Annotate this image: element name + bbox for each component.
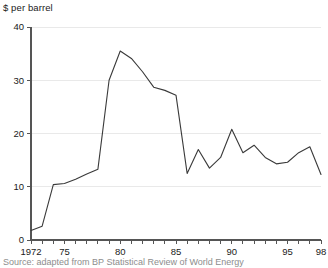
x-tick-label: 80 — [115, 246, 126, 257]
y-tick-label: 20 — [13, 128, 24, 139]
data-series-line — [31, 51, 321, 230]
y-tick-label: 0 — [19, 234, 24, 245]
y-tick-group: 010203040 — [13, 21, 31, 245]
x-tick-label: 75 — [59, 246, 70, 257]
x-tick-label: 95 — [282, 246, 293, 257]
oil-price-chart: $ per barrel 010203040 1972758085909598 … — [0, 0, 328, 268]
y-tick-label: 10 — [13, 181, 24, 192]
y-tick-label: 30 — [13, 75, 24, 86]
x-tick-label: 90 — [226, 246, 237, 257]
x-tick-label: 1972 — [20, 246, 41, 257]
x-tick-label: 98 — [316, 246, 327, 257]
source-note: Source: adapted from BP Statistical Revi… — [3, 257, 328, 268]
y-tick-label: 40 — [13, 21, 24, 32]
chart-plot-area: 010203040 1972758085909598 — [0, 0, 328, 268]
x-tick-group: 1972758085909598 — [20, 240, 326, 257]
gridlines-group — [31, 27, 321, 187]
x-tick-label: 85 — [171, 246, 182, 257]
